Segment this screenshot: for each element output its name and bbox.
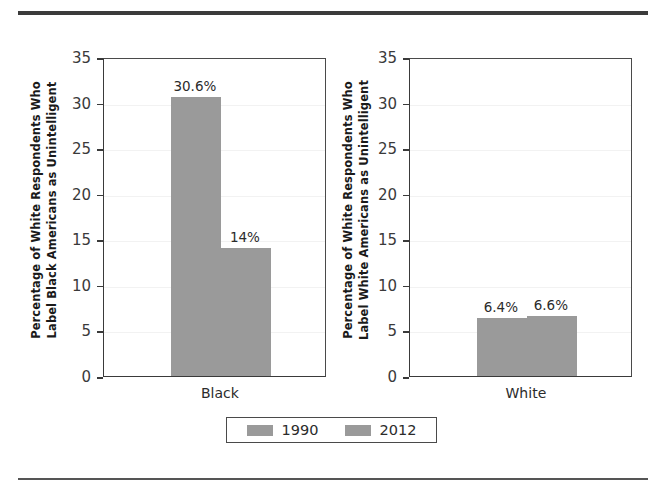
- y-axis-title-line2: Label Black Americans as Unintelligent: [45, 82, 61, 339]
- y-axis-tick-label: 25: [61, 140, 91, 158]
- x-axis-category-label: White: [506, 385, 547, 401]
- y-axis-tick-label: 5: [367, 322, 397, 340]
- y-axis-tick-label: 15: [367, 231, 397, 249]
- y-axis-tick: [97, 286, 103, 288]
- y-axis-tick: [97, 377, 103, 379]
- gridline: [410, 241, 631, 242]
- y-axis-title-line1: Percentage of White Respondents Who: [29, 81, 45, 339]
- y-axis-tick-label: 25: [367, 140, 397, 158]
- gridline: [410, 196, 631, 197]
- y-axis-tick: [403, 331, 409, 333]
- bar-value-label: 6.6%: [534, 297, 568, 313]
- panel-white: Percentage of White Respondents Who Labe…: [330, 40, 648, 440]
- legend-label-1990: 1990: [282, 422, 319, 438]
- y-axis-tick: [97, 331, 103, 333]
- bar-value-label: 6.4%: [484, 299, 518, 315]
- y-axis-tick: [97, 195, 103, 197]
- legend-entry-2012[interactable]: 2012: [345, 422, 417, 438]
- y-axis-tick-label: 10: [367, 277, 397, 295]
- legend-entry-1990[interactable]: 1990: [247, 422, 319, 438]
- y-axis-title-black: Percentage of White Respondents Who Labe…: [24, 40, 66, 380]
- plot-area-black: [103, 58, 326, 377]
- y-axis-tick: [403, 149, 409, 151]
- figure: Percentage of White Respondents Who Labe…: [0, 0, 660, 490]
- y-axis-tick: [403, 377, 409, 379]
- y-axis-tick: [97, 104, 103, 106]
- y-axis-tick: [403, 58, 409, 60]
- y-axis-tick-label: 0: [367, 368, 397, 386]
- bar-value-label: 14%: [230, 229, 260, 245]
- bar-white-1990: [477, 318, 527, 376]
- y-axis-tick-label: 20: [367, 186, 397, 204]
- bar-value-label: 30.6%: [173, 78, 216, 94]
- y-axis-tick-label: 5: [61, 322, 91, 340]
- y-axis-tick-label: 0: [61, 368, 91, 386]
- y-axis-tick: [97, 58, 103, 60]
- y-axis-tick: [97, 240, 103, 242]
- bar-black-2012: [221, 248, 271, 376]
- y-axis-tick: [403, 104, 409, 106]
- plot-area-white: [409, 58, 632, 377]
- y-axis-tick-label: 15: [61, 231, 91, 249]
- y-axis-tick-label: 30: [367, 95, 397, 113]
- panel-black: Percentage of White Respondents Who Labe…: [18, 40, 336, 440]
- top-rule: [18, 11, 648, 15]
- y-axis-tick: [403, 286, 409, 288]
- y-axis-tick: [403, 240, 409, 242]
- legend-swatch-2012: [345, 425, 371, 436]
- gridline: [410, 105, 631, 106]
- legend: 1990 2012: [226, 417, 437, 443]
- y-axis-tick-label: 20: [61, 186, 91, 204]
- y-axis-title-line1: Percentage of White Respondents Who: [341, 81, 357, 339]
- legend-swatch-1990: [247, 425, 273, 436]
- y-axis-tick: [403, 195, 409, 197]
- y-axis-title-line2: Label White Americans as Unintelligent: [357, 80, 373, 340]
- y-axis-tick-label: 35: [367, 49, 397, 67]
- y-axis-tick-label: 30: [61, 95, 91, 113]
- bar-black-1990: [171, 97, 221, 376]
- y-axis-tick: [97, 149, 103, 151]
- gridline: [410, 150, 631, 151]
- bottom-rule: [18, 478, 648, 480]
- x-axis-category-label: Black: [201, 385, 239, 401]
- legend-label-2012: 2012: [380, 422, 417, 438]
- gridline: [410, 287, 631, 288]
- y-axis-tick-label: 35: [61, 49, 91, 67]
- y-axis-tick-label: 10: [61, 277, 91, 295]
- bar-white-2012: [527, 316, 577, 376]
